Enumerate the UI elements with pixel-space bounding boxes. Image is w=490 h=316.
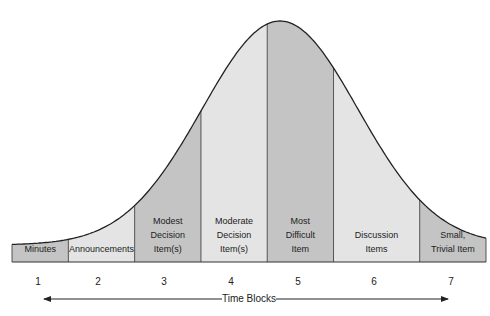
x-axis-label: Time Blocks: [222, 293, 276, 304]
block-label-line: Items: [366, 244, 389, 254]
time-axis: Time Blocks: [44, 293, 448, 304]
block-number-2: 2: [95, 276, 101, 287]
block-label-3: ModestDecisionItem(s): [151, 216, 186, 254]
block-label-line: Decision: [151, 230, 186, 240]
block-label-4: ModerateDecisionItem(s): [215, 216, 253, 254]
block-number-7: 7: [448, 276, 454, 287]
block-label-line: Announcements: [69, 244, 135, 254]
block-label-line: Small,: [440, 230, 465, 240]
block-label-line: Item(s): [220, 244, 248, 254]
bell-curve-chart: MinutesAnnouncementsModestDecisionItem(s…: [0, 0, 490, 316]
block-label-line: Trivial Item: [431, 244, 475, 254]
block-label-line: Minutes: [24, 244, 56, 254]
block-number-6: 6: [371, 276, 377, 287]
block-label-line: Item: [292, 244, 310, 254]
block-number-4: 4: [228, 276, 234, 287]
block-numbers: 1234567: [35, 276, 454, 287]
time-block-band-1: [12, 0, 68, 262]
block-label-line: Decision: [217, 230, 252, 240]
block-label-line: Discussion: [355, 230, 399, 240]
time-block-band-7: [420, 0, 486, 262]
block-label-1: Minutes: [24, 244, 56, 254]
block-label-line: Difficult: [286, 230, 316, 240]
block-label-line: Item(s): [154, 244, 182, 254]
time-block-band-6: [334, 0, 420, 262]
block-number-3: 3: [161, 276, 167, 287]
block-label-line: Modest: [153, 216, 183, 226]
block-number-5: 5: [295, 276, 301, 287]
block-label-line: Moderate: [215, 216, 253, 226]
block-label-2: Announcements: [69, 244, 135, 254]
block-number-1: 1: [35, 276, 41, 287]
block-label-line: Most: [291, 216, 311, 226]
time-block-band-2: [68, 0, 134, 262]
